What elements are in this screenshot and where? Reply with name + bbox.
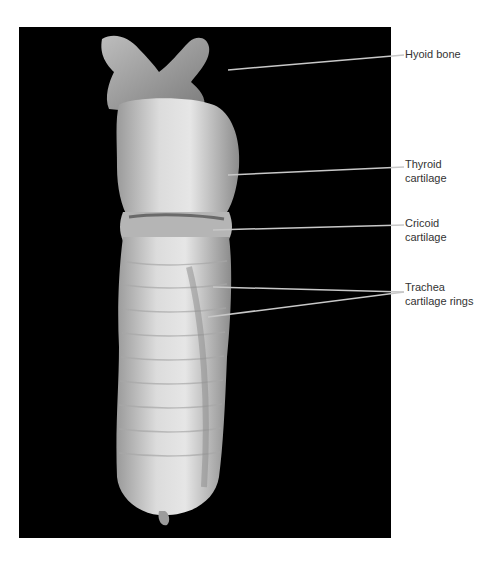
label-hyoid-bone: Hyoid bone — [405, 47, 461, 61]
label-thyroid-cartilage: Thyroid cartilage — [405, 157, 447, 185]
label-trachea-cartilage-rings: Trachea cartilage rings — [405, 280, 473, 308]
label-cricoid-cartilage: Cricoid cartilage — [405, 216, 447, 244]
thyroid-cartilage-shape — [117, 98, 240, 219]
trachea-shape — [116, 237, 231, 515]
larynx-trachea-specimen — [19, 27, 391, 538]
specimen-photograph — [19, 27, 391, 538]
